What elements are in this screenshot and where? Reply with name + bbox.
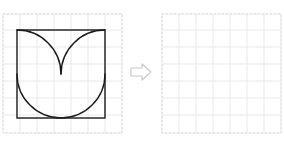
- target-panel[interactable]: [161, 14, 281, 134]
- source-panel[interactable]: [2, 14, 122, 134]
- upper-right-petal-arc: [61, 30, 105, 74]
- target-panel-canvas: [161, 14, 281, 134]
- transform-arrow: [130, 62, 152, 82]
- grid-lines-right: [162, 14, 281, 133]
- grid-lines-left: [3, 14, 122, 133]
- source-panel-canvas: [2, 14, 122, 134]
- arrow-right-icon: [130, 62, 152, 82]
- puzzle-canvas: [0, 0, 284, 144]
